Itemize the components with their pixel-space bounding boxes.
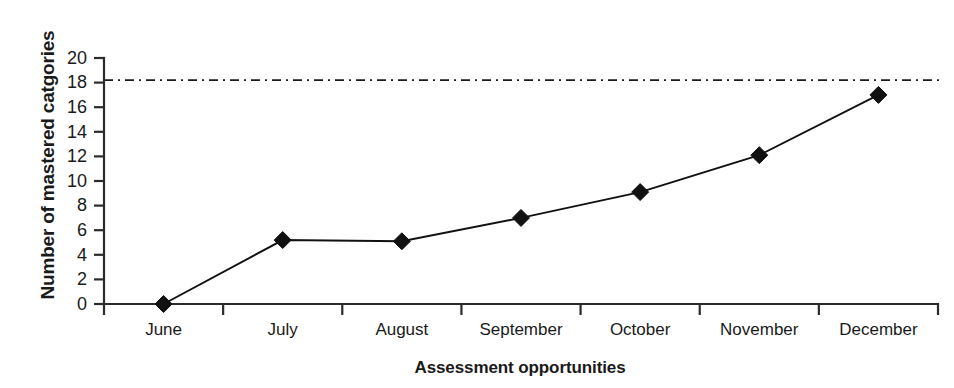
data-point-august [393,233,410,250]
x-axis-title: Assessment opportunities [100,358,940,378]
data-point-july [274,232,291,249]
data-point-november [751,147,768,164]
x-tick-label-group: JuneJulyAugustSeptemberOctoberNovemberDe… [145,320,918,339]
series-line-mastered-categories [164,95,879,304]
y-tick-label-14: 14 [67,122,87,142]
series-marker-group [155,86,887,312]
y-tick-label-16: 16 [67,97,87,117]
x-tick-group [104,304,938,315]
y-tick-label-8: 8 [77,195,87,215]
y-tick-group [94,58,104,304]
x-tick-label-september: September [479,320,562,339]
data-point-september [513,209,530,226]
x-tick-label-november: November [720,320,799,339]
data-point-october [632,184,649,201]
x-tick-label-october: October [610,320,671,339]
y-tick-label-6: 6 [77,220,87,240]
y-axis: 02468101214161820 [67,48,104,314]
x-tick-label-august: August [375,320,428,339]
chart-plot-area: 02468101214161820 JuneJulyAugustSeptembe… [0,0,954,388]
x-tick-label-june: June [145,320,182,339]
data-point-december [870,86,887,103]
x-tick-label-july: July [268,320,299,339]
y-tick-label-20: 20 [67,48,87,68]
y-tick-label-12: 12 [67,146,87,166]
line-chart-figure: Number of mastered catgories 02468101214… [0,0,954,388]
y-tick-label-10: 10 [67,171,87,191]
y-tick-label-4: 4 [77,245,87,265]
y-tick-label-2: 2 [77,269,87,289]
data-point-june [155,296,172,313]
x-axis: JuneJulyAugustSeptemberOctoberNovemberDe… [104,304,938,339]
y-tick-label-0: 0 [77,294,87,314]
x-tick-label-december: December [839,320,918,339]
y-tick-label-18: 18 [67,72,87,92]
y-tick-label-group: 02468101214161820 [67,48,87,314]
series-group [155,86,887,312]
